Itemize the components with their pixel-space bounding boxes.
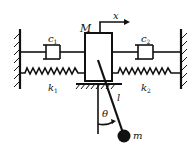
diagram-canvas: M x c1 c2 k1 k2 l θ m xyxy=(0,0,195,154)
ground-support xyxy=(76,84,122,89)
left-wall xyxy=(14,29,20,89)
label-damper-left: c1 xyxy=(48,33,57,45)
damper-left xyxy=(20,45,85,59)
right-wall xyxy=(181,29,187,89)
label-spring-left: k1 xyxy=(48,82,58,94)
label-angle: θ xyxy=(102,108,108,119)
label-damper-right: c2 xyxy=(141,33,151,45)
label-pendulum-length: l xyxy=(117,92,120,103)
spring-right xyxy=(112,68,181,74)
displacement-arrow xyxy=(100,19,130,33)
label-bob-mass: m xyxy=(133,130,142,141)
mass-block xyxy=(85,33,112,81)
spring-left xyxy=(20,68,85,74)
label-displacement: x xyxy=(113,10,119,21)
pendulum-bob xyxy=(118,130,131,143)
label-spring-right: k2 xyxy=(141,82,151,94)
label-mass-block: M xyxy=(79,22,92,35)
angle-arc xyxy=(98,119,116,125)
damper-right xyxy=(112,45,181,59)
